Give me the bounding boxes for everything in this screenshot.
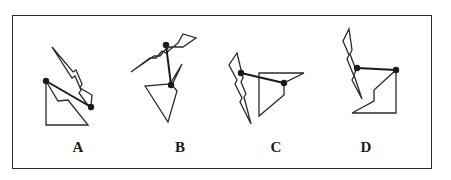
pivot-dot <box>354 65 360 71</box>
pivot-dot <box>238 70 244 76</box>
connector-line <box>357 68 396 70</box>
pivot-dot <box>88 104 94 110</box>
lightning-bolt-shape <box>343 29 362 99</box>
connector-line <box>46 81 91 107</box>
option-c-figure <box>229 53 304 124</box>
lightning-bolt-shape <box>229 53 251 124</box>
connector-line <box>241 73 284 83</box>
pivot-dot <box>168 82 174 88</box>
lightning-bolt-shape <box>131 34 196 72</box>
pivot-dot <box>281 80 287 86</box>
option-b-figure <box>131 34 196 122</box>
option-label-c[interactable]: C <box>271 139 282 156</box>
pivot-dot <box>43 78 49 84</box>
option-label-b[interactable]: B <box>175 139 185 156</box>
pivot-dot <box>163 42 169 48</box>
option-label-d[interactable]: D <box>361 139 372 156</box>
figures-canvas <box>0 0 451 180</box>
option-label-a[interactable]: A <box>73 139 84 156</box>
polygon-shape <box>145 64 182 122</box>
option-a-figure <box>43 47 94 125</box>
option-d-figure <box>343 29 399 113</box>
lightning-bolt-shape <box>52 47 92 107</box>
polygon-shape <box>46 81 88 125</box>
pivot-dot <box>393 67 399 73</box>
